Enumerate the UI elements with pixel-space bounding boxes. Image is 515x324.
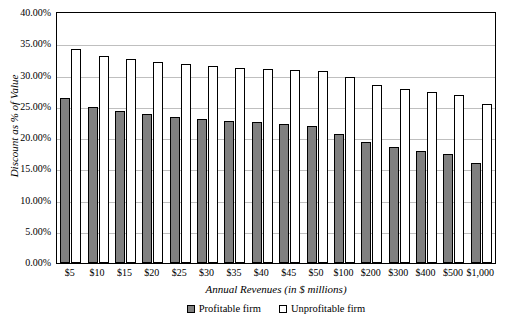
legend-label-profitable: Profitable firm — [199, 303, 261, 314]
bar-unprofitable — [99, 56, 109, 264]
bar-group — [194, 13, 221, 263]
bar-group — [386, 13, 413, 263]
bar-profitable — [416, 151, 426, 263]
bar-profitable — [60, 98, 70, 263]
bar-profitable — [252, 122, 262, 263]
bar-group — [167, 13, 194, 263]
bar-profitable — [389, 147, 399, 263]
chart-container: Discount as % of Value 0.00%5.00%10.00%1… — [0, 0, 515, 324]
bar-unprofitable — [290, 70, 300, 263]
bar-group — [440, 13, 467, 263]
y-axis-tick-label: 20.00% — [0, 133, 51, 143]
bar-profitable — [279, 124, 289, 263]
bar-profitable — [88, 107, 98, 263]
bar-group — [331, 13, 358, 263]
legend-swatch-unprofitable-icon — [279, 305, 287, 313]
bar-group — [112, 13, 139, 263]
x-axis-tick-label: $1,000 — [463, 267, 498, 278]
bar-group — [303, 13, 330, 263]
legend-swatch-profitable-icon — [187, 305, 195, 313]
bar-profitable — [334, 134, 344, 263]
bar-group — [57, 13, 84, 263]
bar-profitable — [197, 119, 207, 263]
y-axis-tick-label: 40.00% — [0, 8, 51, 18]
bar-unprofitable — [263, 69, 273, 263]
bar-unprofitable — [71, 49, 81, 263]
plot-area — [56, 12, 496, 264]
y-axis-tick-label: 25.00% — [0, 102, 51, 112]
bar-group — [276, 13, 303, 263]
bar-unprofitable — [400, 89, 410, 263]
legend-item-unprofitable: Unprofitable firm — [279, 303, 365, 314]
bar-profitable — [170, 117, 180, 263]
chart-legend: Profitable firm Unprofitable firm — [56, 303, 496, 314]
bar-unprofitable — [482, 104, 492, 263]
bar-group — [221, 13, 248, 263]
bar-profitable — [307, 126, 317, 264]
bar-unprofitable — [126, 59, 136, 263]
bar-profitable — [443, 154, 453, 263]
bar-profitable — [224, 121, 234, 263]
x-axis-title: Annual Revenues (in $ millions) — [56, 283, 496, 295]
legend-label-unprofitable: Unprofitable firm — [291, 303, 365, 314]
bar-unprofitable — [345, 77, 355, 263]
legend-item-profitable: Profitable firm — [187, 303, 261, 314]
y-axis-tick-label: 15.00% — [0, 164, 51, 174]
bar-group — [468, 13, 495, 263]
bar-unprofitable — [153, 62, 163, 263]
bar-unprofitable — [427, 92, 437, 263]
y-axis-tick-label: 0.00% — [0, 258, 51, 268]
y-axis-tick-label: 35.00% — [0, 39, 51, 49]
bar-unprofitable — [454, 95, 464, 263]
bar-profitable — [115, 111, 125, 263]
y-axis-tick-label: 10.00% — [0, 196, 51, 206]
y-axis-tick-label: 5.00% — [0, 227, 51, 237]
bar-unprofitable — [372, 85, 382, 263]
bar-group — [84, 13, 111, 263]
bars-layer — [57, 13, 495, 263]
bar-group — [358, 13, 385, 263]
bar-profitable — [142, 114, 152, 263]
bar-group — [413, 13, 440, 263]
bar-profitable — [471, 163, 481, 263]
y-axis-tick-label: 30.00% — [0, 71, 51, 81]
bar-group — [249, 13, 276, 263]
bar-unprofitable — [181, 64, 191, 263]
bar-unprofitable — [318, 71, 328, 264]
bar-unprofitable — [208, 66, 218, 263]
bar-unprofitable — [235, 68, 245, 263]
bar-group — [139, 13, 166, 263]
bar-profitable — [361, 142, 371, 263]
